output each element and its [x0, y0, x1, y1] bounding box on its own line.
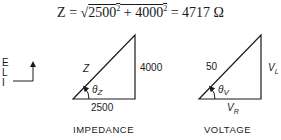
voltage-hypotenuse-label: 50 [206, 61, 218, 72]
phasor-diagrams: E L I Z 4000 2500 θZ IMPEDANCE 50 VL VR … [0, 0, 281, 140]
impedance-angle-label: θZ [92, 84, 103, 97]
axis-reference: E L I [2, 57, 33, 88]
voltage-angle-label: θV [218, 84, 229, 97]
angle-arc-icon [85, 88, 89, 99]
voltage-caption: VOLTAGE [204, 124, 251, 135]
impedance-hypotenuse-label: Z [82, 63, 90, 74]
voltage-triangle: 50 VL VR θV VOLTAGE [199, 35, 279, 135]
axis-label-i: I [2, 77, 5, 88]
voltage-horizontal-label: VR [227, 102, 239, 115]
impedance-triangle: Z 4000 2500 θZ IMPEDANCE [73, 35, 163, 135]
impedance-vertical-label: 4000 [140, 62, 163, 73]
impedance-horizontal-label: 2500 [91, 102, 114, 113]
angle-arc-icon [211, 88, 215, 99]
voltage-vertical-label: VL [268, 62, 279, 75]
impedance-caption: IMPEDANCE [73, 124, 134, 135]
